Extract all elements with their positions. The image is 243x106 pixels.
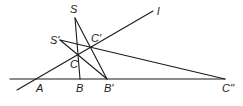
label-A: A	[35, 82, 43, 94]
line-Sprime-Cdoubleprime	[60, 40, 225, 79]
geometry-diagram: S S' l C' C A B B' C''	[0, 0, 243, 106]
label-S-prime: S'	[50, 34, 60, 46]
label-B-prime: B'	[104, 82, 114, 94]
label-S: S	[70, 3, 78, 15]
label-l: l	[157, 5, 160, 17]
label-C: C	[70, 58, 78, 70]
line-l	[17, 11, 153, 90]
label-C-prime: C'	[91, 32, 102, 44]
label-B: B	[76, 82, 83, 94]
label-C-double-prime: C''	[222, 82, 235, 94]
